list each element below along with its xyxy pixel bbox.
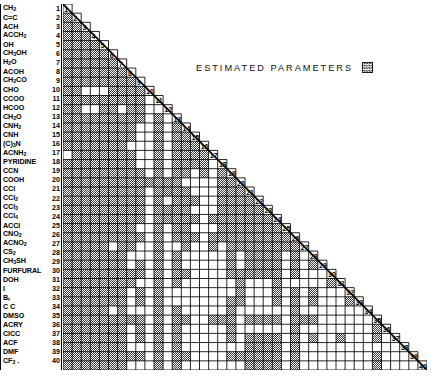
- matrix-cell-filled: [218, 233, 227, 242]
- matrix-cell-filled: [63, 41, 72, 50]
- matrix-cell-filled: [372, 333, 381, 342]
- matrix-cell-filled: [90, 160, 99, 169]
- matrix-cell-filled: [227, 297, 236, 306]
- matrix-cell-filled: [190, 214, 199, 223]
- matrix-cell-filled: [227, 269, 236, 278]
- matrix-cell-filled: [72, 269, 81, 278]
- matrix-cell-filled: [99, 187, 108, 196]
- matrix-cell-filled: [254, 233, 263, 242]
- matrix-cell-filled: [81, 178, 90, 187]
- matrix-cell-filled: [109, 260, 118, 269]
- matrix-cell-filled: [99, 196, 108, 205]
- matrix-cell-filled: [154, 333, 163, 342]
- matrix-cell-filled: [154, 132, 163, 141]
- matrix-cell-filled: [109, 269, 118, 278]
- matrix-cell-filled: [309, 297, 318, 306]
- matrix-cell-filled: [72, 150, 81, 159]
- matrix-cell-filled: [99, 306, 108, 315]
- matrix-cell-filled: [99, 269, 108, 278]
- matrix-cell-filled: [145, 178, 154, 187]
- matrix-cell-filled: [81, 297, 90, 306]
- matrix-cell-filled: [181, 205, 190, 214]
- matrix-cell-filled: [90, 50, 99, 59]
- matrix-cell-filled: [154, 114, 163, 123]
- matrix-cell-filled: [72, 214, 81, 223]
- diagonal-index: 28: [310, 253, 318, 260]
- matrix-cell-filled: [81, 96, 90, 105]
- matrix-cell-filled: [63, 361, 72, 370]
- matrix-cell-filled: [72, 251, 81, 260]
- matrix-cell-filled: [63, 114, 72, 123]
- matrix-cell-filled: [245, 361, 254, 370]
- matrix-cell-filled: [127, 96, 136, 105]
- group-name: CF2 .: [3, 357, 19, 366]
- matrix-cell-filled: [218, 315, 227, 324]
- matrix-cell-filled: [72, 59, 81, 68]
- matrix-cell-filled: [63, 224, 72, 233]
- group-index: 28: [52, 249, 60, 257]
- matrix-cell-filled: [154, 242, 163, 251]
- matrix-cell-filled: [236, 352, 245, 361]
- diagonal-index: 18: [219, 161, 227, 168]
- matrix-cell-filled: [99, 297, 108, 306]
- matrix-cell-filled: [118, 132, 127, 141]
- matrix-cell-filled: [72, 324, 81, 333]
- matrix-cell-filled: [118, 279, 127, 288]
- matrix-cell-filled: [118, 150, 127, 159]
- matrix-cell-filled: [99, 361, 108, 370]
- matrix-cell-filled: [272, 224, 281, 233]
- diagonal-index: 17: [210, 152, 218, 159]
- diagonal-index: 40: [419, 363, 427, 370]
- matrix-cell-filled: [263, 233, 272, 242]
- matrix-cell-filled: [81, 242, 90, 251]
- matrix-cell-filled: [227, 233, 236, 242]
- matrix-cell-filled: [81, 123, 90, 132]
- matrix-cell-filled: [72, 105, 81, 114]
- matrix-cell-filled: [272, 343, 281, 352]
- group-name: ACF: [3, 339, 17, 347]
- matrix-cell-filled: [172, 178, 181, 187]
- group-index: 9: [56, 77, 60, 85]
- matrix-cell-filled: [336, 333, 345, 342]
- group-index: 14: [52, 122, 60, 130]
- matrix-cell-filled: [254, 260, 263, 269]
- group-index: 5: [56, 41, 60, 49]
- matrix-cell-filled: [254, 224, 263, 233]
- group-name: ClCC: [3, 330, 20, 338]
- matrix-cell-filled: [90, 187, 99, 196]
- matrix-cell-filled: [109, 233, 118, 242]
- matrix-cell-filled: [227, 352, 236, 361]
- matrix-cell-filled: [136, 187, 145, 196]
- matrix-cell-filled: [63, 251, 72, 260]
- group-name: ACCH2: [3, 31, 26, 40]
- matrix-cell-filled: [263, 361, 272, 370]
- matrix-cell-filled: [281, 242, 290, 251]
- matrix-cell-filled: [109, 315, 118, 324]
- matrix-cell-filled: [172, 343, 181, 352]
- diagonal-index: 23: [264, 207, 272, 214]
- group-name: COOH: [3, 176, 24, 184]
- matrix-cell-filled: [181, 150, 190, 159]
- hatched-square-icon: [362, 62, 373, 73]
- diagonal-index: 33: [355, 299, 363, 306]
- diagonal-index: 3: [82, 24, 86, 31]
- diagonal-index: 10: [146, 88, 154, 95]
- matrix-cell-filled: [300, 315, 309, 324]
- matrix-cell-filled: [81, 352, 90, 361]
- matrix-cell-filled: [154, 169, 163, 178]
- matrix-cell-filled: [72, 22, 81, 31]
- matrix-cell-filled: [227, 224, 236, 233]
- matrix-cell-filled: [218, 224, 227, 233]
- matrix-cell-filled: [263, 343, 272, 352]
- matrix-cell-filled: [172, 315, 181, 324]
- matrix-cell-filled: [99, 68, 108, 77]
- matrix-cell-filled: [63, 196, 72, 205]
- matrix-cell-filled: [172, 150, 181, 159]
- matrix-cell-filled: [118, 233, 127, 242]
- matrix-cell-filled: [109, 333, 118, 342]
- matrix-cell-filled: [227, 196, 236, 205]
- matrix-cell-filled: [181, 233, 190, 242]
- matrix-cell-filled: [309, 260, 318, 269]
- matrix-cell-filled: [309, 333, 318, 342]
- matrix-cell-filled: [245, 260, 254, 269]
